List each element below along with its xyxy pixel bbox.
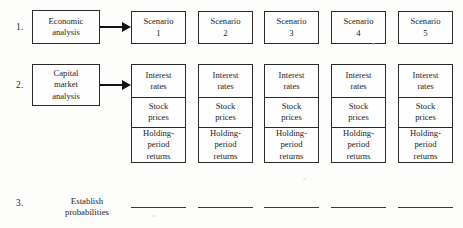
capital-market-line-3: analysis (52, 91, 80, 102)
scenario-box-3: Scenario 3 (264, 11, 319, 44)
detail-line: Holding- (276, 128, 307, 139)
probability-rule-4 (331, 207, 386, 208)
detail-cell-stock-prices-4: Stock prices (332, 98, 385, 128)
detail-line: Stock (416, 101, 436, 112)
detail-line: period (281, 139, 303, 150)
probability-rule-3 (264, 207, 319, 208)
step-number-2: 2. (16, 81, 24, 91)
probability-rule-1 (131, 207, 186, 208)
scenario-box-1: Scenario 1 (131, 11, 186, 44)
scan-speckle (372, 43, 375, 45)
figure-canvas: 1. 2. 3. Economic analysis Scenario 1 Sc… (0, 0, 463, 228)
detail-line: returns (414, 151, 438, 162)
detail-cell-interest-rates-1: Interest rates (132, 65, 185, 98)
detail-line: Holding- (143, 128, 174, 139)
detail-line: prices (148, 112, 169, 123)
step-number-3: 3. (16, 199, 24, 209)
detail-line: Stock (216, 101, 236, 112)
detail-cell-interest-rates-4: Interest rates (332, 65, 385, 98)
detail-cell-stock-prices-5: Stock prices (399, 98, 452, 128)
scenario-title-1: Scenario (143, 16, 173, 27)
detail-cell-stock-prices-3: Stock prices (265, 98, 318, 128)
detail-line: returns (280, 151, 304, 162)
detail-line: prices (215, 112, 236, 123)
arrow-economic-to-scenarios (100, 22, 131, 33)
detail-line: Interest (279, 70, 305, 81)
scenario-index-5: 5 (423, 28, 427, 39)
scenario-detail-column-2: Interest rates Stock prices Holding- per… (198, 64, 253, 163)
probability-rule-2 (198, 207, 253, 208)
detail-cell-holding-period-returns-2: Holding- period returns (199, 128, 252, 162)
detail-line: Interest (413, 70, 439, 81)
establish-probabilities-label: Establish probabilities (47, 196, 127, 219)
scenario-box-5: Scenario 5 (398, 11, 453, 44)
detail-cell-interest-rates-5: Interest rates (399, 65, 452, 98)
detail-line: rates (283, 81, 299, 92)
scenario-detail-column-4: Interest rates Stock prices Holding- per… (331, 64, 386, 163)
detail-line: Interest (146, 70, 172, 81)
detail-line: Holding- (410, 128, 441, 139)
establish-probabilities-line-1: Establish (47, 196, 127, 207)
scenario-detail-column-3: Interest rates Stock prices Holding- per… (264, 64, 319, 163)
capital-market-line-2: market (54, 79, 78, 90)
scenario-title-2: Scenario (210, 16, 240, 27)
detail-cell-holding-period-returns-5: Holding- period returns (399, 128, 452, 162)
detail-line: prices (415, 112, 436, 123)
detail-line: period (348, 139, 370, 150)
scan-speckle (303, 178, 306, 180)
scenario-index-2: 2 (223, 28, 227, 39)
detail-cell-holding-period-returns-3: Holding- period returns (265, 128, 318, 162)
detail-line: returns (147, 151, 171, 162)
detail-line: prices (281, 112, 302, 123)
scenario-box-4: Scenario 4 (331, 11, 386, 44)
scenario-title-4: Scenario (343, 16, 373, 27)
detail-cell-stock-prices-1: Stock prices (132, 98, 185, 128)
scenario-detail-column-5: Interest rates Stock prices Holding- per… (398, 64, 453, 163)
detail-line: rates (217, 81, 233, 92)
detail-line: rates (350, 81, 366, 92)
scenario-title-3: Scenario (276, 16, 306, 27)
detail-cell-holding-period-returns-4: Holding- period returns (332, 128, 385, 162)
detail-line: prices (348, 112, 369, 123)
scenario-index-3: 3 (289, 28, 293, 39)
detail-line: returns (347, 151, 371, 162)
detail-line: period (148, 139, 170, 150)
detail-line: Stock (282, 101, 302, 112)
detail-cell-stock-prices-2: Stock prices (199, 98, 252, 128)
detail-line: Interest (346, 70, 372, 81)
step-number-1: 1. (16, 23, 24, 33)
detail-line: Holding- (210, 128, 241, 139)
scenario-index-1: 1 (156, 28, 160, 39)
detail-cell-interest-rates-2: Interest rates (199, 65, 252, 98)
detail-line: Interest (213, 70, 239, 81)
scenario-index-4: 4 (356, 28, 360, 39)
detail-cell-holding-period-returns-1: Holding- period returns (132, 128, 185, 162)
detail-line: Stock (349, 101, 369, 112)
detail-line: rates (150, 81, 166, 92)
scan-speckle (189, 101, 191, 103)
capital-market-line-1: Capital (54, 68, 79, 79)
capital-market-analysis-box: Capital market analysis (32, 64, 100, 106)
economic-analysis-line-1: Economic (49, 16, 84, 27)
establish-probabilities-line-2: probabilities (47, 207, 127, 218)
detail-line: period (215, 139, 237, 150)
detail-line: Stock (149, 101, 169, 112)
detail-line: returns (214, 151, 238, 162)
scenario-box-2: Scenario 2 (198, 11, 253, 44)
economic-analysis-box: Economic analysis (32, 10, 100, 44)
probability-rule-5 (398, 207, 453, 208)
detail-line: rates (417, 81, 433, 92)
scenario-title-5: Scenario (410, 16, 440, 27)
scan-speckle (152, 215, 155, 217)
detail-line: Holding- (343, 128, 374, 139)
arrow-capital-market-to-details (100, 80, 131, 91)
scenario-detail-column-1: Interest rates Stock prices Holding- per… (131, 64, 186, 163)
detail-line: period (415, 139, 437, 150)
economic-analysis-line-2: analysis (52, 27, 80, 38)
detail-cell-interest-rates-3: Interest rates (265, 65, 318, 98)
